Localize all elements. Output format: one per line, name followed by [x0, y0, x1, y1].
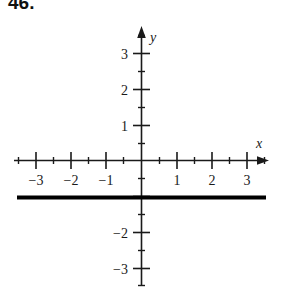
- y-axis-label: y: [148, 30, 157, 45]
- x-axis-arrow-icon: [257, 156, 269, 165]
- y-tick-label: 3: [121, 47, 128, 62]
- x-tick-label: −1: [99, 173, 114, 188]
- x-tick-label: −3: [29, 173, 44, 188]
- y-tick-label: −2: [113, 226, 128, 241]
- y-axis-tick-labels: 3 2 1 −2 −3: [113, 47, 128, 277]
- coordinate-plane-graph: y x −3 −2 −1 1 2 3 3 2 1 −2 −3: [0, 0, 283, 290]
- x-axis-label: x: [255, 136, 263, 151]
- x-axis-tick-labels: −3 −2 −1 1 2 3: [29, 173, 251, 188]
- x-tick-label: 1: [174, 173, 181, 188]
- figure-container: 46.: [0, 0, 283, 290]
- y-tick-label: −3: [113, 262, 128, 277]
- x-tick-label: 3: [244, 173, 251, 188]
- y-tick-label: 2: [121, 83, 128, 98]
- x-tick-label: 2: [209, 173, 216, 188]
- x-tick-label: −2: [64, 173, 79, 188]
- y-tick-label: 1: [121, 119, 128, 134]
